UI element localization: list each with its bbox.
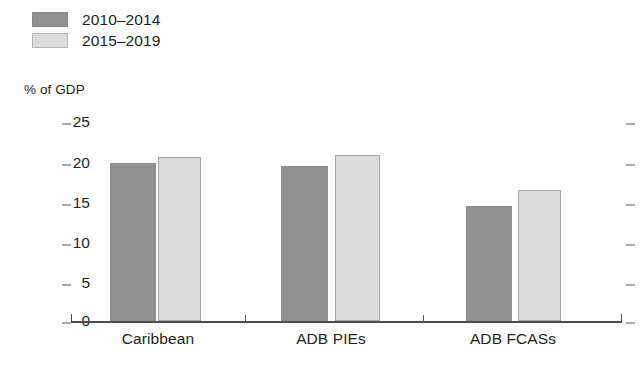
- y-tick-dash-25: [62, 124, 71, 125]
- y-axis-right-line: [621, 314, 622, 322]
- y-tick-dash-10: [62, 245, 71, 246]
- x-axis-label-adb-fcass: ADB FCASs: [470, 330, 556, 348]
- y-tick-dash-right-15: [626, 205, 635, 206]
- y-tick-dash-15: [62, 205, 71, 206]
- y-tick-dash-right-5: [626, 285, 635, 286]
- chart-plot-area: 25 20 15 10 5 0 Caribbean ADB PIEs ADB F…: [0, 0, 640, 386]
- x-axis-line: [71, 321, 622, 323]
- bar-adb-pies-2010-2014[interactable]: [281, 166, 328, 321]
- y-tick-label-20: 20: [56, 155, 90, 171]
- y-tick-dash-right-0: [626, 323, 635, 324]
- x-axis-label-caribbean: Caribbean: [122, 330, 194, 348]
- y-tick-label-10: 10: [56, 235, 90, 251]
- y-tick-dash-right-10: [626, 245, 635, 246]
- bar-caribbean-2010-2014[interactable]: [110, 163, 156, 321]
- y-tick-dash-5: [62, 285, 71, 286]
- y-tick-dash-20: [62, 165, 71, 166]
- bar-adb-fcass-2015-2019[interactable]: [518, 190, 561, 321]
- y-tick-label-15: 15: [56, 195, 90, 211]
- x-axis-group-separator-1: [245, 315, 246, 322]
- x-axis-group-separator-2: [423, 315, 424, 322]
- y-tick-dash-right-20: [626, 165, 635, 166]
- y-tick-label-5: 5: [56, 275, 90, 291]
- bar-adb-pies-2015-2019[interactable]: [335, 155, 380, 321]
- y-tick-label-25: 25: [56, 114, 90, 130]
- bar-caribbean-2015-2019[interactable]: [158, 157, 201, 321]
- bar-adb-fcass-2010-2014[interactable]: [466, 206, 512, 321]
- y-tick-dash-right-25: [626, 124, 635, 125]
- x-axis-label-adb-pies: ADB PIEs: [296, 330, 366, 348]
- y-tick-dash-0: [62, 323, 71, 324]
